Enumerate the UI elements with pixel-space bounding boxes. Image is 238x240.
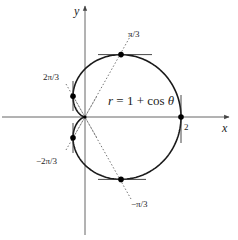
- dotted-line-neg-2pi-over-3: [66, 96, 97, 150]
- label-pi-over-3: π/3: [128, 29, 140, 39]
- dotted-line-pi-over-3: [72, 35, 131, 140]
- x-tick-label-2: 2: [184, 122, 189, 132]
- point-origin: [83, 115, 86, 118]
- dotted-line-neg-pi-over-3: [72, 94, 131, 199]
- equation-middle: = 1 + cos: [113, 93, 168, 108]
- point-pi-over-3: [118, 52, 124, 58]
- y-axis-label: y: [73, 4, 80, 18]
- point-x-equals-2: [178, 114, 184, 120]
- cardioid-plot: y x 2 π/3 2π/3 −2π/3 −π/3 r = 1 + cos θ: [0, 0, 238, 240]
- label-2pi-over-3: 2π/3: [43, 72, 60, 82]
- label-neg-pi-over-3: −π/3: [131, 199, 148, 209]
- cardioid-figure: y x 2 π/3 2π/3 −2π/3 −π/3 r = 1 + cos θ: [0, 0, 238, 240]
- equation-label: r = 1 + cos θ: [108, 93, 175, 108]
- dotted-line-2pi-over-3: [66, 84, 97, 138]
- equation-theta: θ: [168, 93, 175, 108]
- point-neg-pi-over-3: [118, 177, 124, 183]
- label-neg-2pi-over-3: −2π/3: [36, 156, 58, 166]
- point-2pi-over-3: [70, 93, 76, 99]
- x-axis-label: x: [221, 121, 228, 135]
- point-neg-2pi-over-3: [70, 135, 76, 141]
